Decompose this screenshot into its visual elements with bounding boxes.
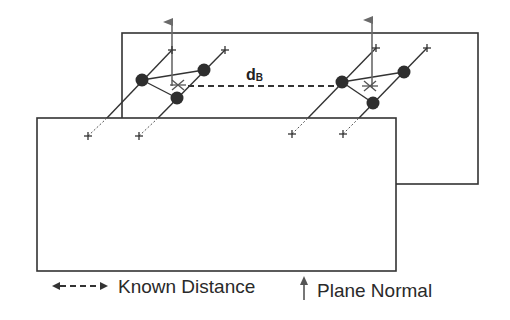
known-distance-label: Known Distance xyxy=(118,276,255,298)
plane-normal-label: Plane Normal xyxy=(317,280,432,302)
legend: Known Distance Plane Normal xyxy=(0,276,510,306)
point-marker xyxy=(367,97,380,110)
dashed-double-arrow-icon xyxy=(52,276,108,298)
legend-plane-normal: Plane Normal xyxy=(299,276,432,305)
up-arrow-icon xyxy=(299,276,309,305)
front-plane xyxy=(37,118,396,271)
point-marker xyxy=(171,92,184,105)
point-marker xyxy=(398,66,411,79)
plane-normal-diagram: dB xyxy=(0,0,510,320)
point-marker xyxy=(336,76,349,89)
point-marker xyxy=(136,74,149,87)
legend-known-distance: Known Distance xyxy=(52,276,255,298)
point-marker xyxy=(198,64,211,77)
